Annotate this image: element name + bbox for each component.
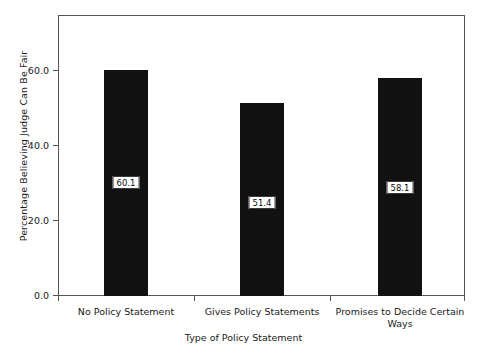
x-category-label-0: No Policy Statement: [61, 306, 191, 318]
y-tick-mark: [53, 70, 58, 71]
y-tick-label: 60.0: [28, 64, 49, 78]
bar-value-label-2: 58.1: [387, 181, 414, 194]
x-tick-mark-1: [194, 296, 195, 301]
x-category-label-2: Promises to Decide Certain Ways: [334, 306, 466, 330]
bar-value-label-0: 60.1: [113, 176, 140, 189]
y-tick-mark: [53, 145, 58, 146]
bar-chart: Percentage Believing Judge Can Be Fair 0…: [0, 0, 487, 357]
y-tick-label: 40.0: [28, 139, 49, 153]
y-tick-0: 0.0: [0, 289, 58, 303]
y-tick-mark: [53, 220, 58, 221]
y-tick-label: 20.0: [28, 214, 49, 228]
x-tick-mark-0: [58, 296, 59, 301]
y-tick-label: 0.0: [34, 289, 49, 303]
bar-value-label-1: 51.4: [249, 196, 276, 209]
x-category-label-1: Gives Policy Statements: [197, 306, 327, 318]
y-tick-3: 60.0: [0, 64, 58, 78]
x-axis-title: Type of Policy Statement: [0, 332, 487, 343]
x-tick-mark-2: [330, 296, 331, 301]
y-tick-1: 20.0: [0, 214, 58, 228]
x-tick-mark-3: [464, 296, 465, 301]
y-tick-2: 40.0: [0, 139, 58, 153]
